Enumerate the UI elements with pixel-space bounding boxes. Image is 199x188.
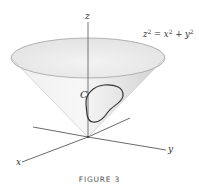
y-axis-label: y	[168, 145, 173, 154]
z-axis-label: z	[85, 12, 90, 21]
eq-equals: =	[151, 29, 164, 39]
y-axis	[88, 137, 166, 150]
cone-equation: z2 = x2 + y2	[143, 30, 194, 39]
curve-c-label: C	[80, 90, 88, 100]
figure-caption: FIGURE 3	[0, 175, 199, 184]
cone-figure: z x y C z2 = x2 + y2 FIGURE 3	[0, 0, 199, 188]
x-axis-label: x	[16, 158, 21, 167]
x-axis	[22, 137, 88, 162]
eq-term2-exp: 2	[190, 28, 194, 35]
eq-plus: +	[172, 29, 185, 39]
